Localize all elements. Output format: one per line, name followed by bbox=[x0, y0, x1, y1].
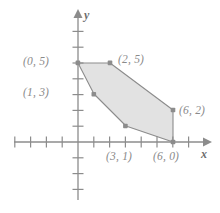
point-label-0-5: (0, 5) bbox=[23, 55, 49, 67]
point-label-1-3: (1, 3) bbox=[23, 86, 49, 98]
y-axis-arrow-icon bbox=[74, 9, 83, 18]
y-axis-label: y bbox=[84, 8, 89, 23]
vertex-marker-6-2 bbox=[171, 108, 176, 113]
point-label-6-0: (6, 0) bbox=[153, 150, 179, 162]
x-axis-label: x bbox=[201, 147, 207, 162]
x-axis-arrow-icon bbox=[203, 138, 212, 147]
vertex-marker-1-3 bbox=[92, 92, 97, 97]
point-label-3-1: (3, 1) bbox=[106, 150, 132, 162]
vertex-marker-6-0 bbox=[171, 140, 176, 145]
point-label-2-5: (2, 5) bbox=[118, 53, 144, 65]
vertex-marker-3-1 bbox=[123, 124, 128, 129]
vertex-marker-2-5 bbox=[108, 61, 113, 66]
graph-figure: (0, 5) (2, 5) (1, 3) (6, 2) (3, 1) (6, 0… bbox=[0, 0, 220, 213]
point-label-6-2: (6, 2) bbox=[179, 104, 205, 116]
feasible-region-polygon bbox=[78, 63, 173, 142]
vertex-marker-0-5 bbox=[76, 61, 81, 66]
